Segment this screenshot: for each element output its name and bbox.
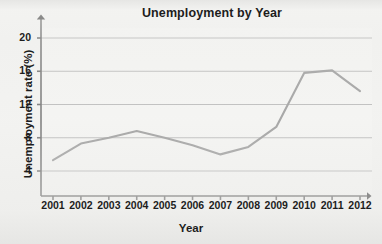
- chart-title: Unemployment by Year: [112, 6, 312, 20]
- y-tick-label-16: 16: [5, 64, 31, 76]
- x-axis-title: Year: [0, 222, 382, 234]
- y-tick-label-8: 8: [5, 131, 31, 143]
- chart-screenshot: Unemployment by Year Unemployment rate (…: [0, 0, 382, 244]
- y-tick-label-4: 4: [5, 164, 31, 176]
- y-tick-label-20: 20: [5, 31, 31, 43]
- x-tick-label-2012: 2012: [343, 199, 377, 211]
- y-tick-label-12: 12: [5, 98, 31, 110]
